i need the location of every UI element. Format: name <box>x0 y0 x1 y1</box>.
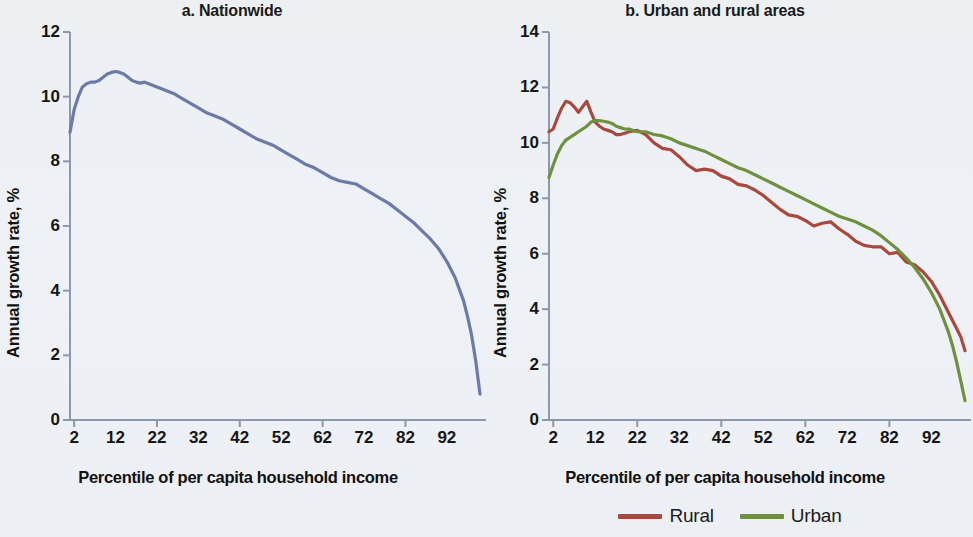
panel-a-svg <box>0 0 487 460</box>
chart-legend: RuralUrban <box>487 505 973 527</box>
panel-b-svg <box>487 0 973 460</box>
legend-item-rural[interactable]: Rural <box>618 505 713 527</box>
x-tick-label: 52 <box>754 428 773 448</box>
x-tick-label: 42 <box>712 428 731 448</box>
legend-label-rural: Rural <box>669 505 713 527</box>
legend-swatch-urban <box>740 514 784 519</box>
x-tick-label: 22 <box>148 428 167 448</box>
x-tick-label: 32 <box>670 428 689 448</box>
x-tick-label: 62 <box>313 428 332 448</box>
x-tick-label: 52 <box>272 428 291 448</box>
figure-container: a. Nationwide Annual growth rate, % Perc… <box>0 0 973 537</box>
x-tick-label: 2 <box>548 428 557 448</box>
legend-label-urban: Urban <box>791 505 842 527</box>
x-tick-label: 62 <box>796 428 815 448</box>
x-tick-label: 32 <box>189 428 208 448</box>
x-tick-label: 42 <box>230 428 249 448</box>
x-tick-label: 82 <box>880 428 899 448</box>
x-tick-label: 82 <box>396 428 415 448</box>
x-tick-label: 2 <box>69 428 78 448</box>
x-tick-label: 92 <box>922 428 941 448</box>
series-line-urban <box>549 121 965 401</box>
x-tick-label: 22 <box>628 428 647 448</box>
panel-a-x-axis-title: Percentile of per capita household incom… <box>8 468 468 487</box>
series-line-rural <box>549 101 965 350</box>
panel-b-x-axis-title: Percentile of per capita household incom… <box>491 468 959 487</box>
x-tick-label: 12 <box>586 428 605 448</box>
series-line-nationwide <box>70 71 480 394</box>
x-tick-label: 12 <box>106 428 125 448</box>
x-tick-label: 92 <box>437 428 456 448</box>
legend-swatch-rural <box>618 514 662 519</box>
legend-item-urban[interactable]: Urban <box>740 505 842 527</box>
chart-panel-urban-rural: b. Urban and rural areas Annual growth r… <box>487 0 973 537</box>
panel-b-plot-area: 2122232425262728292 <box>487 0 973 460</box>
x-tick-label: 72 <box>355 428 374 448</box>
chart-panel-nationwide: a. Nationwide Annual growth rate, % Perc… <box>0 0 487 537</box>
x-tick-label: 72 <box>838 428 857 448</box>
panel-a-plot-area: 2122232425262728292 <box>0 0 487 460</box>
